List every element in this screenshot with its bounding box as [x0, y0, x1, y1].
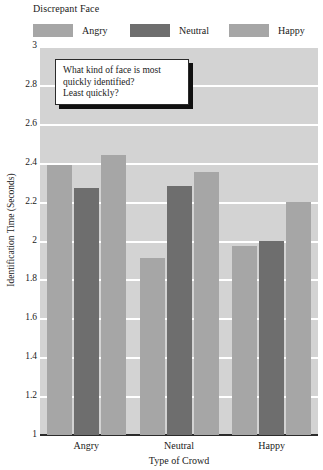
annotation-box: What kind of face is most quickly identi…: [55, 59, 189, 105]
legend-swatch-happy: [229, 24, 269, 37]
bar-happy-neutral: [259, 241, 284, 436]
legend: Angry Neutral Happy: [33, 22, 318, 39]
legend-label-neutral: Neutral: [179, 25, 209, 36]
x-tick-label: Angry: [40, 440, 133, 451]
bar-angry-happy: [101, 155, 126, 435]
legend-item-neutral: Neutral: [130, 22, 209, 39]
legend-swatch-neutral: [130, 24, 170, 37]
bar-neutral-angry: [140, 258, 165, 435]
x-tick-label: Neutral: [133, 440, 226, 451]
y-tick-label: 1: [3, 430, 37, 440]
legend-label-angry: Angry: [82, 25, 108, 36]
legend-swatch-angry: [33, 24, 73, 37]
annotation-line-3: Least quickly?: [63, 88, 182, 100]
bar-happy-angry: [232, 246, 257, 435]
y-tick-label: 3: [3, 41, 37, 51]
bar-happy-happy: [286, 202, 311, 435]
x-axis-title: Type of Crowd: [40, 455, 318, 466]
legend-label-happy: Happy: [278, 25, 305, 36]
bar-chart: Discrepant Face Angry Neutral Happy 32.8…: [0, 0, 323, 470]
bar-neutral-happy: [194, 172, 219, 435]
y-tick-label: 1.2: [3, 391, 37, 401]
bar-neutral-neutral: [167, 186, 192, 435]
y-tick-label: 2.8: [3, 80, 37, 90]
annotation-line-1: What kind of face is most: [63, 65, 182, 77]
legend-title: Discrepant Face: [33, 3, 99, 14]
legend-item-angry: Angry: [33, 22, 108, 39]
legend-item-happy: Happy: [229, 22, 305, 39]
y-tick-label: 1.4: [3, 352, 37, 362]
bar-angry-angry: [47, 165, 72, 435]
bar-angry-neutral: [74, 188, 99, 435]
x-tick-label: Happy: [225, 440, 318, 451]
y-tick-label: 2.6: [3, 119, 37, 129]
annotation-line-2: quickly identified?: [63, 77, 182, 89]
y-axis-title: Identification Time (Seconds): [6, 130, 16, 330]
